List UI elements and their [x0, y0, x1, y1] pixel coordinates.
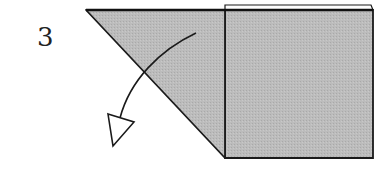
origami-fold-diagram — [0, 0, 392, 179]
fold-arrow-head-icon — [108, 114, 134, 146]
folded-triangle-flap — [86, 10, 225, 158]
square-panel — [225, 10, 373, 158]
